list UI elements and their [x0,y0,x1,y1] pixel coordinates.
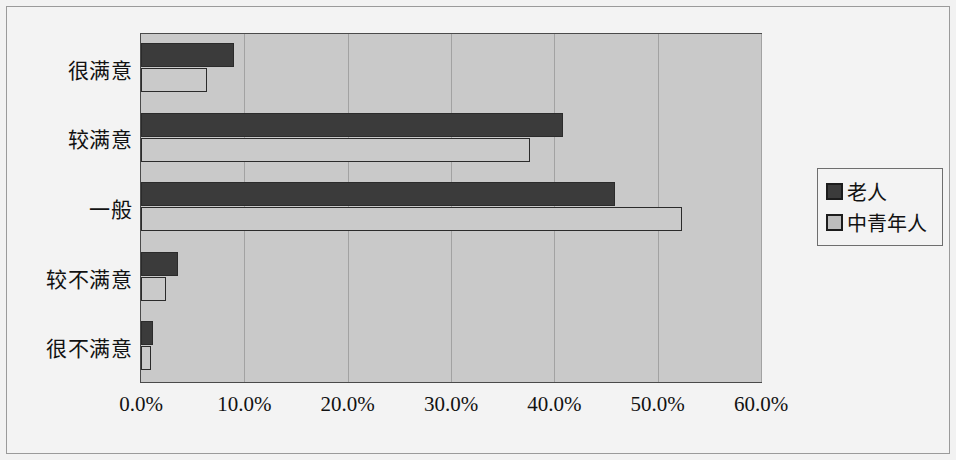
legend-label-1: 中青年人 [847,208,927,237]
chart-page: 很满意 较满意 一般 较不满意 很不满意 0.0%10.0%20.0%30.0%… [0,0,956,460]
legend-label-0: 老人 [847,177,887,206]
bar [141,182,615,206]
x-axis-tick-label: 0.0% [86,392,196,417]
bar [141,113,563,137]
x-axis-tick-label: 30.0% [396,392,506,417]
y-axis-label-0: 很满意 [0,54,132,84]
bar [141,277,166,301]
y-axis-label-3: 较不满意 [0,263,132,293]
legend: 老人 中青年人 [817,168,943,246]
y-axis-label-2: 一般 [0,193,132,223]
bar [141,138,530,162]
gridline [761,34,762,382]
x-axis-tick-label: 60.0% [706,392,816,417]
y-axis-label-1: 较满意 [0,123,132,153]
bar [141,207,682,231]
x-axis-labels: 0.0%10.0%20.0%30.0%40.0%50.0%60.0% [0,392,956,426]
bar [141,252,178,276]
y-axis-label-4: 很不满意 [0,332,132,362]
x-axis-tick-label: 50.0% [603,392,713,417]
bar [141,68,207,92]
legend-swatch-icon-1 [826,214,843,231]
bar [141,346,151,370]
legend-item-1: 中青年人 [826,207,942,238]
legend-swatch-icon-0 [826,183,843,200]
x-axis-tick-label: 10.0% [189,392,299,417]
x-axis-tick-label: 20.0% [293,392,403,417]
legend-item-0: 老人 [826,176,942,207]
y-axis-labels: 很满意 较满意 一般 较不满意 很不满意 [0,33,132,383]
x-axis-tick-label: 40.0% [499,392,609,417]
bar [141,321,153,345]
bar [141,43,234,67]
plot-area [140,33,762,383]
